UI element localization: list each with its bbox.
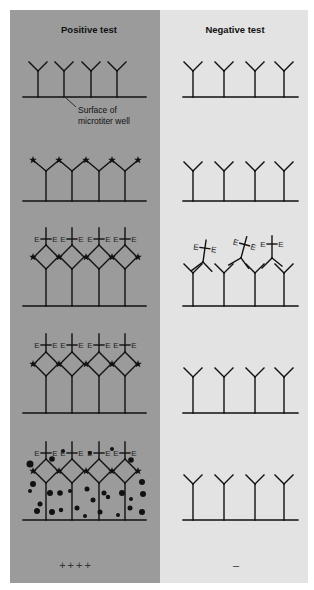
enzyme-label: E (87, 341, 92, 350)
positive-panel (10, 10, 160, 583)
enzyme-label: E (278, 240, 283, 249)
colored-product-dot (49, 456, 55, 462)
enzyme-label: E (78, 235, 83, 244)
enzyme-label: E (260, 240, 265, 249)
colored-product-dot (102, 491, 107, 496)
colored-product-dot (38, 502, 43, 507)
colored-product-dot (128, 506, 133, 511)
enzyme-label: E (78, 449, 83, 458)
colored-product-dot (98, 510, 103, 515)
enzyme-label: E (113, 449, 118, 458)
colored-product-dot (75, 506, 80, 511)
enzyme-label: E (113, 341, 118, 350)
colored-product-dot (91, 498, 96, 503)
colored-product-dot (119, 490, 125, 496)
colored-product-dot (59, 508, 63, 512)
colored-product-dot (30, 481, 36, 487)
callout-label-line2: microtiter well (78, 116, 130, 126)
negative-panel (160, 10, 308, 583)
enzyme-label: E (52, 235, 57, 244)
enzyme-label: E (113, 235, 118, 244)
enzyme-label: E (131, 449, 136, 458)
colored-product-dot (61, 449, 65, 453)
colored-product-dot (129, 497, 133, 501)
colored-product-dot (47, 490, 53, 496)
colored-product-dot (128, 457, 134, 463)
colored-product-dot (106, 495, 110, 499)
enzyme-label: E (78, 341, 83, 350)
enzyme-label: E (34, 449, 39, 458)
colored-product-dot (28, 489, 32, 493)
colored-product-dot (139, 479, 145, 485)
colored-product-dot (139, 509, 145, 515)
negative-panel-title: Negative test (205, 24, 265, 35)
enzyme-label: E (34, 341, 39, 350)
enzyme-label: E (131, 235, 136, 244)
enzyme-label: E (105, 341, 110, 350)
colored-product-dot (27, 461, 34, 468)
negative-result: – (233, 559, 240, 571)
colored-product-dot (57, 490, 63, 496)
colored-product-dot (140, 491, 146, 497)
colored-product-dot (49, 509, 55, 515)
positive-panel-title: Positive test (61, 24, 118, 35)
colored-product-dot (116, 513, 120, 517)
colored-product-dot (83, 514, 87, 518)
enzyme-label: E (60, 341, 65, 350)
enzyme-label: E (60, 235, 65, 244)
enzyme-label: E (87, 235, 92, 244)
enzyme-label: E (52, 341, 57, 350)
colored-product-dot (68, 489, 72, 493)
colored-product-dot (88, 451, 92, 455)
enzyme-label: E (34, 235, 39, 244)
enzyme-label: E (105, 449, 110, 458)
colored-product-dot (110, 447, 114, 451)
elisa-diagram: Positive test Negative test Surface of m… (0, 0, 314, 590)
callout-label-line1: Surface of (78, 105, 117, 115)
enzyme-label: E (131, 341, 136, 350)
enzyme-label: E (105, 235, 110, 244)
positive-result: ++++ (59, 559, 93, 571)
colored-product-dot (34, 508, 40, 514)
colored-product-dot (85, 487, 90, 492)
